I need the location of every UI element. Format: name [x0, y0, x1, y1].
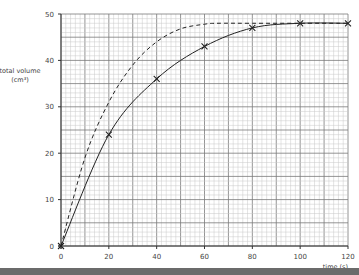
x-tick-label: 80: [248, 253, 257, 261]
y-tick-label: 50: [45, 11, 54, 19]
x-tick-label: 40: [152, 253, 161, 261]
y-tick-label: 40: [45, 57, 54, 65]
y-axis-label: (cm³): [11, 76, 29, 84]
bottom-bar: [0, 268, 359, 275]
y-tick-label: 10: [45, 196, 54, 204]
volume-time-chart: 02040608010012001020304050time (s)total …: [0, 0, 359, 275]
x-tick-label: 120: [341, 253, 354, 261]
x-tick-label: 0: [59, 253, 63, 261]
y-tick-label: 20: [45, 150, 54, 158]
x-tick-label: 60: [200, 253, 209, 261]
x-tick-label: 100: [293, 253, 306, 261]
y-tick-label: 30: [45, 103, 54, 111]
x-tick-label: 20: [104, 253, 113, 261]
y-tick-label: 0: [50, 243, 54, 251]
chart-svg: 02040608010012001020304050time (s)total …: [0, 0, 359, 275]
y-axis-label: total volume: [0, 67, 41, 75]
